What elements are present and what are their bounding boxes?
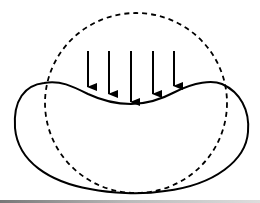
bottom-edge-bar [0, 200, 260, 203]
load-arrows [88, 51, 174, 102]
deformation-diagram [0, 0, 260, 203]
